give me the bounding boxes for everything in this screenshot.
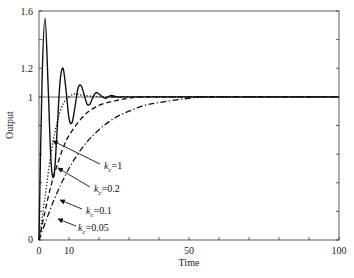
arrow-kc-0.05	[58, 219, 76, 226]
arrow-kc-1	[53, 141, 100, 164]
series-kc-0.05	[39, 97, 339, 240]
y-tick-label-1.2: 1.2	[21, 63, 34, 74]
arrow-kc-0.1	[60, 200, 82, 209]
label-kc-1: kc=1	[104, 160, 122, 174]
y-tick-label-1.6: 1.6	[21, 6, 34, 17]
y-axis-title: Output	[4, 111, 15, 139]
label-kc-0.1: kc=0.1	[86, 205, 112, 219]
x-tick-label-10: 10	[64, 245, 74, 256]
y-tick-label-0: 0	[28, 234, 33, 245]
x-tick-label-50: 50	[184, 245, 194, 256]
arrow-kc-0.2	[58, 168, 90, 187]
axis-ticks	[39, 11, 339, 240]
series-group	[39, 18, 339, 240]
step-response-chart: 1.6 1.2 1 0 0 10 50 100 Time Output kc=1…	[0, 0, 354, 278]
x-tick-label-100: 100	[332, 245, 347, 256]
series-kc-1	[39, 18, 339, 240]
series-kc-0.2	[39, 94, 339, 240]
x-axis-title: Time	[179, 257, 200, 268]
y-tick-label-1: 1	[28, 92, 33, 103]
label-kc-0.2: kc=0.2	[94, 183, 120, 197]
plot-area-frame	[39, 11, 339, 240]
label-kc-0.05: kc=0.05	[78, 222, 109, 236]
x-tick-label-0: 0	[37, 245, 42, 256]
series-kc-0.1	[39, 97, 339, 240]
